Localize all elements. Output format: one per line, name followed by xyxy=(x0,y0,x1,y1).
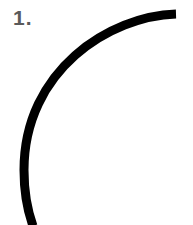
arc-shape xyxy=(0,0,193,225)
